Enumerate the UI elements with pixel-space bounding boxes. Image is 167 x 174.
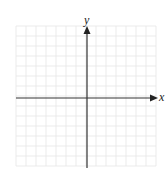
x-axis-label: x — [159, 91, 164, 103]
x-axis-arrow-icon — [150, 95, 158, 102]
y-axis-arrow-icon — [84, 26, 91, 34]
y-axis-label: y — [84, 14, 89, 26]
grid-lines — [16, 26, 156, 166]
